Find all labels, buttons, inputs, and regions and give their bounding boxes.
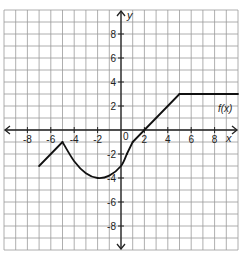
x-tick-label: -8 — [23, 134, 32, 145]
y-tick-label: -8 — [107, 221, 116, 232]
x-tick-label: -4 — [70, 134, 79, 145]
origin-label: 0 — [123, 131, 129, 142]
y-tick-label: 4 — [110, 77, 116, 88]
y-tick-label: 2 — [110, 101, 116, 112]
x-tick-label: 8 — [212, 134, 218, 145]
function-segment — [63, 142, 127, 178]
axes — [5, 11, 237, 249]
x-tick-label: -2 — [93, 134, 102, 145]
y-tick-label: 8 — [110, 29, 116, 40]
y-tick-label: 6 — [110, 53, 116, 64]
y-tick-label: -2 — [107, 149, 116, 160]
axis-labels: x y f(x) 0 — [123, 9, 232, 144]
x-axis-label: x — [225, 132, 232, 144]
function-graph: -8-6-4-224688642-2-4-6-8 x y f(x) 0 — [0, 0, 242, 254]
function-segment — [127, 142, 133, 154]
x-tick-label: 4 — [165, 134, 171, 145]
x-tick-label: 2 — [142, 134, 148, 145]
x-tick-label: 6 — [188, 134, 194, 145]
function-label: f(x) — [218, 103, 232, 114]
y-tick-label: -6 — [107, 197, 116, 208]
x-tick-label: -6 — [46, 134, 55, 145]
